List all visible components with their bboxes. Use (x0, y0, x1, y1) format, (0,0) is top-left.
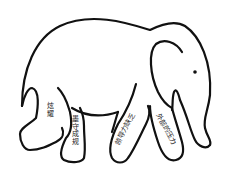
eye (193, 70, 197, 74)
trunk-inner-outline (172, 90, 180, 110)
ear-outline (151, 41, 182, 108)
hind-left-leg-label: 炫耀 (46, 102, 53, 117)
hind-right-leg-label: 墨守成规 (71, 115, 78, 145)
hind-left-leg-inner (58, 88, 70, 112)
elephant-outline (0, 0, 230, 180)
hind-left-leg-outline (20, 88, 63, 150)
